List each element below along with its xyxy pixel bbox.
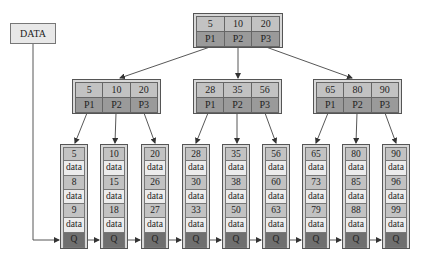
leaf-data: data [225,190,247,204]
leaf-data: data [265,218,287,232]
leaf-data: data [305,190,327,204]
leaf-key: 26 [144,176,166,190]
leaf-key: 10 [103,147,125,161]
leaf-key: 96 [385,176,407,190]
internal-key: 28 [197,83,224,98]
root-pointer: P1 [197,32,225,47]
leaf-key: 88 [345,204,367,218]
leaf-node: 35 data 38 data 50 data Q [222,144,250,249]
leaf-key: 20 [144,147,166,161]
leaf-data: data [265,190,287,204]
root-key: 10 [224,17,252,32]
internal-key: 90 [371,83,398,98]
leaf-key: 56 [265,147,287,161]
leaf-key: 65 [305,147,327,161]
internal-key: 10 [103,83,130,98]
leaf-data: data [225,161,247,175]
leaf-data: data [63,218,85,232]
leaf-key: 60 [265,176,287,190]
leaf-data: data [185,190,207,204]
internal-pointer: P1 [197,98,224,113]
leaf-key: 18 [103,204,125,218]
leaf-key: 79 [305,204,327,218]
leaf-next-pointer: Q [185,233,207,248]
leaf-data: data [305,218,327,232]
leaf-key: 15 [103,176,125,190]
internal-pointer: P1 [317,98,344,113]
leaf-key: 27 [144,204,166,218]
leaf-node: 20 data 26 data 27 data Q [141,144,169,249]
internal-pointer: P1 [76,98,103,113]
leaf-data: data [103,190,125,204]
internal-node-right: 65 80 90 P1 P2 P3 [313,79,402,114]
leaf-data: data [63,190,85,204]
internal-pointer: P2 [103,98,130,113]
root-node: 5 10 20 P1 P2 P3 [193,13,283,48]
leaf-node: 65 data 73 data 79 data Q [302,144,330,249]
leaf-data: data [345,218,367,232]
leaf-node: 10 data 15 data 18 data Q [100,144,128,249]
leaf-node: 90 data 96 data 99 data Q [382,144,410,249]
internal-key: 56 [251,83,278,98]
leaf-node: 5 data 8 data 9 data Q [60,144,88,249]
leaf-data: data [385,190,407,204]
leaf-data: data [103,218,125,232]
leaf-key: 99 [385,204,407,218]
leaf-data: data [385,218,407,232]
internal-pointer: P3 [251,98,278,113]
leaf-next-pointer: Q [305,233,327,248]
leaf-key: 28 [185,147,207,161]
root-key: 5 [197,17,225,32]
data-entry-box: DATA [10,23,56,44]
root-pointer: P3 [252,32,280,47]
leaf-key: 5 [63,147,85,161]
leaf-next-pointer: Q [265,233,287,248]
internal-node-left: 5 10 20 P1 P2 P3 [72,79,161,114]
leaf-node: 28 data 30 data 33 data Q [182,144,210,249]
root-key: 20 [252,17,280,32]
leaf-next-pointer: Q [345,233,367,248]
internal-node-middle: 28 35 56 P1 P2 P3 [193,79,282,114]
internal-pointer: P2 [224,98,251,113]
leaf-next-pointer: Q [225,233,247,248]
leaf-next-pointer: Q [103,233,125,248]
leaf-next-pointer: Q [63,233,85,248]
internal-key: 35 [224,83,251,98]
leaf-key: 38 [225,176,247,190]
internal-pointer: P3 [371,98,398,113]
leaf-data: data [63,161,85,175]
leaf-key: 33 [185,204,207,218]
leaf-key: 90 [385,147,407,161]
leaf-node: 56 data 60 data 63 data Q [262,144,290,249]
leaf-key: 63 [265,204,287,218]
leaf-key: 35 [225,147,247,161]
leaf-key: 50 [225,204,247,218]
leaf-data: data [265,161,287,175]
leaf-key: 8 [63,176,85,190]
leaf-data: data [144,218,166,232]
leaf-data: data [185,218,207,232]
leaf-data: data [345,190,367,204]
root-pointer: P2 [224,32,252,47]
leaf-data: data [144,190,166,204]
leaf-data: data [385,161,407,175]
leaf-key: 80 [345,147,367,161]
leaf-next-pointer: Q [144,233,166,248]
leaf-key: 30 [185,176,207,190]
leaf-key: 85 [345,176,367,190]
leaf-data: data [144,161,166,175]
internal-key: 20 [130,83,157,98]
internal-key: 80 [344,83,371,98]
internal-pointer: P3 [130,98,157,113]
internal-key: 5 [76,83,103,98]
leaf-data: data [305,161,327,175]
internal-key: 65 [317,83,344,98]
leaf-next-pointer: Q [385,233,407,248]
leaf-node: 80 data 85 data 88 data Q [342,144,370,249]
leaf-data: data [225,218,247,232]
leaf-data: data [103,161,125,175]
leaf-key: 9 [63,204,85,218]
leaf-data: data [185,161,207,175]
internal-pointer: P2 [344,98,371,113]
leaf-data: data [345,161,367,175]
